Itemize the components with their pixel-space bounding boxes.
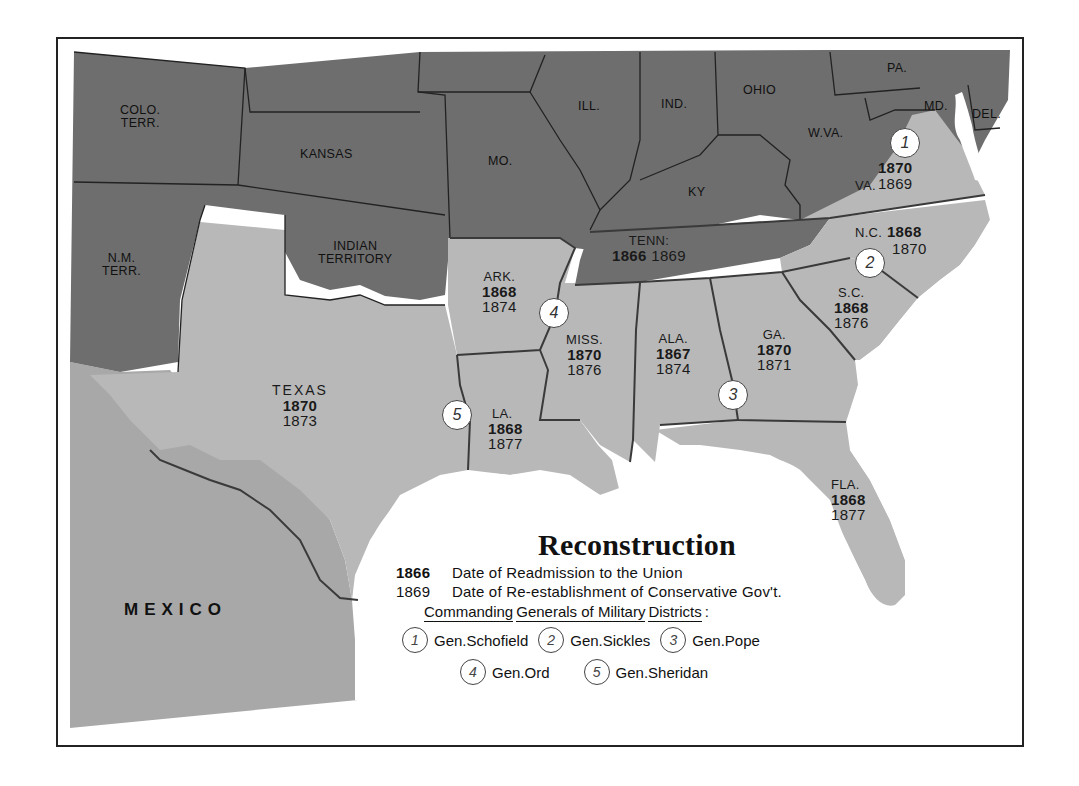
label-texas: TEXAS18701873: [272, 383, 328, 429]
label-arkansas: ARK.18681874: [482, 270, 517, 315]
label-pa: PA.: [887, 62, 907, 75]
label-alabama: ALA.18671874: [656, 332, 691, 377]
legend-conservative-text: Date of Re-establishment of Conservative…: [452, 583, 782, 600]
label-mississippi: MISS.18701876: [566, 333, 603, 378]
label-ohio: OHIO: [743, 84, 776, 97]
label-kansas: KANSAS: [300, 148, 353, 161]
label-wva: W.VA.: [808, 127, 843, 140]
label-ky: KY: [688, 186, 705, 199]
district-number-icon: 4: [460, 659, 486, 685]
label-colo-terr: COLO.TERR.: [120, 104, 160, 130]
legend-generals-row-1: 1Gen.Schofield 2Gen.Sickles 3Gen.Pope: [402, 627, 900, 653]
legend-general-1: 1Gen.Schofield: [402, 627, 528, 653]
legend-generals-heading: CommandingGenerals of MilitaryDistricts:: [424, 603, 900, 620]
legend-conservative-row: 1869Date of Re-establishment of Conserva…: [396, 583, 900, 600]
legend-title: Reconstruction: [374, 528, 900, 562]
legend-general-2: 2Gen.Sickles: [538, 627, 650, 653]
label-indian-territory: INDIANTERRITORY: [318, 240, 392, 266]
legend-general-5: 5Gen.Sheridan: [584, 659, 709, 685]
label-del: DEL.: [972, 108, 1001, 121]
district-number-icon: 5: [584, 659, 610, 685]
label-tennessee: TENN: 1866 1869: [612, 234, 686, 264]
map-legend: Reconstruction 1866Date of Readmission t…: [380, 528, 900, 685]
label-md: MD.: [924, 100, 948, 113]
label-louisiana: LA.18681877: [488, 407, 523, 452]
label-nm-terr: N.M.TERR.: [102, 252, 141, 278]
label-ind: IND.: [661, 98, 687, 111]
label-virginia: VA.18701869: [855, 160, 912, 193]
district-marker-2: 2: [855, 248, 885, 278]
label-georgia: GA.18701871: [757, 328, 792, 373]
district-marker-3: 3: [718, 380, 748, 410]
legend-general-3: 3Gen.Pope: [660, 627, 760, 653]
district-marker-1: 1: [890, 128, 920, 158]
label-ill: ILL.: [578, 100, 600, 113]
legend-general-4: 4Gen.Ord: [460, 659, 550, 685]
label-mexico: MEXICO: [124, 600, 227, 620]
legend-readmission-row: 1866Date of Readmission to the Union: [396, 564, 900, 581]
district-marker-4: 4: [539, 298, 569, 328]
legend-bold-year: 1866: [396, 564, 452, 581]
district-marker-5: 5: [442, 400, 472, 430]
district-number-icon: 3: [660, 627, 686, 653]
label-florida: FLA.18681877: [831, 478, 866, 523]
legend-generals-row-2: 4Gen.Ord 5Gen.Sheridan: [460, 659, 900, 685]
label-mo: MO.: [488, 155, 513, 168]
label-south-carolina: S.C.18681876: [834, 286, 869, 331]
district-number-icon: 1: [402, 627, 428, 653]
legend-plain-year: 1869: [396, 583, 452, 600]
legend-readmission-text: Date of Readmission to the Union: [452, 564, 683, 581]
district-number-icon: 2: [538, 627, 564, 653]
